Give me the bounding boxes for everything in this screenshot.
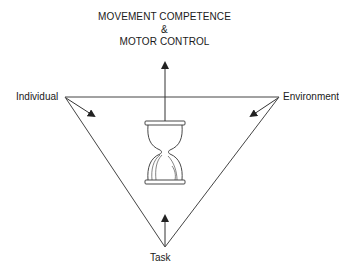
arrow-environment-inward [251, 98, 278, 116]
arrow-individual-inward [66, 98, 94, 116]
node-environment-label: Environment [283, 91, 339, 103]
triangle [65, 97, 279, 247]
hourglass-icon [145, 121, 185, 184]
node-individual-label: Individual [16, 91, 58, 103]
node-task-label: Task [150, 252, 171, 264]
